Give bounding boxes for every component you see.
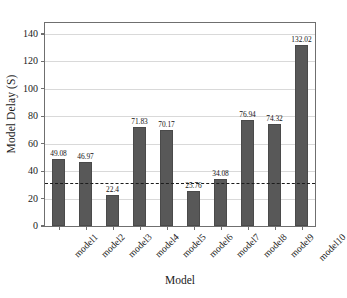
plot-area: 49.0846.9722.471.8370.1725.7634.0876.947… (44, 22, 316, 227)
y-axis-tick-mark (41, 198, 45, 199)
x-axis-tick-label: model1 (72, 232, 99, 259)
bar (241, 120, 255, 226)
x-axis-tick-label: model7 (234, 232, 261, 259)
y-axis-tick-label: 0 (16, 221, 41, 231)
bar (52, 159, 66, 226)
x-axis-tick-mark (221, 226, 222, 230)
y-axis-tick-mark (41, 33, 45, 34)
bar (295, 45, 309, 226)
x-axis-tick-label: model2 (99, 232, 126, 259)
x-axis-tick-label: model4 (153, 232, 180, 259)
bar-value-label: 74.32 (266, 115, 283, 122)
x-axis-tick-mark (113, 226, 114, 230)
bar-value-label: 49.08 (50, 150, 67, 157)
y-axis-tick: 140 (16, 29, 45, 39)
x-axis-tick-label: model6 (207, 232, 234, 259)
x-axis-tick-label: model10 (316, 232, 347, 263)
x-axis-tick-mark (302, 226, 303, 230)
gridline (45, 34, 315, 35)
bar (133, 127, 147, 226)
threshold-dashed-line (45, 183, 315, 184)
y-axis-tick: 80 (16, 111, 45, 121)
x-axis-tick-mark (248, 226, 249, 230)
y-axis-tick-mark (41, 143, 45, 144)
bar (187, 191, 201, 226)
y-axis-tick: 60 (16, 139, 45, 149)
y-axis-tick-label: 120 (16, 56, 41, 66)
x-axis-tick-label: model5 (180, 232, 207, 259)
x-axis-title: Model (44, 274, 316, 286)
y-axis-tick-label: 40 (16, 166, 41, 176)
y-axis-tick: 120 (16, 56, 45, 66)
bar-value-label: 22.4 (106, 186, 119, 193)
y-axis-tick: 0 (16, 221, 45, 231)
x-axis-tick-mark (167, 226, 168, 230)
x-axis-tick-mark (275, 226, 276, 230)
y-axis-tick-label: 80 (16, 111, 41, 121)
bar-value-label: 46.97 (77, 153, 94, 160)
x-axis-tick-label: model9 (288, 232, 315, 259)
y-axis-tick: 20 (16, 194, 45, 204)
y-axis-tick-mark (41, 88, 45, 89)
y-axis-tick-label: 100 (16, 84, 41, 94)
gridline (45, 61, 315, 62)
y-axis-tick-mark (41, 116, 45, 117)
y-axis-tick: 40 (16, 166, 45, 176)
bar-value-label: 76.94 (239, 111, 256, 118)
gridline (45, 89, 315, 90)
x-axis-tick-label: model3 (126, 232, 153, 259)
plot-inner: 49.0846.9722.471.8370.1725.7634.0876.947… (45, 23, 315, 226)
bar (79, 162, 93, 226)
bar (160, 130, 174, 226)
x-axis-tick-mark (194, 226, 195, 230)
y-axis-tick-label: 140 (16, 29, 41, 39)
bar (268, 124, 282, 226)
x-axis-tick-label: model8 (261, 232, 288, 259)
bar-value-label: 71.83 (131, 118, 148, 125)
x-axis-tick-mark (86, 226, 87, 230)
y-axis-tick-label: 60 (16, 139, 41, 149)
y-axis-tick-label: 20 (16, 194, 41, 204)
bar (106, 195, 120, 226)
bar-value-label: 70.17 (158, 121, 175, 128)
bar-value-label: 34.08 (212, 170, 229, 177)
y-axis-tick-mark (41, 225, 45, 226)
bar (214, 179, 228, 226)
y-axis-tick-mark (41, 61, 45, 62)
bar-value-label: 132.02 (291, 36, 311, 43)
x-axis-tick-mark (59, 226, 60, 230)
y-axis-tick-mark (41, 171, 45, 172)
y-axis-tick: 100 (16, 84, 45, 94)
x-axis-tick-mark (140, 226, 141, 230)
